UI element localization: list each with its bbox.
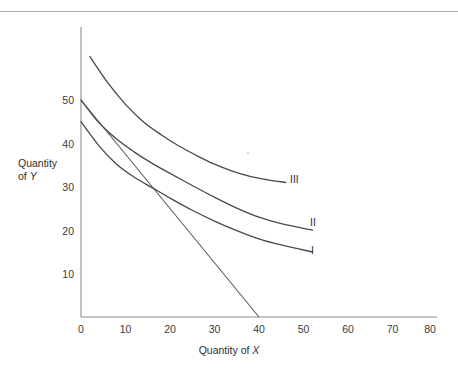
budget-constraint-line <box>81 100 259 317</box>
indifference-curve-iii <box>90 57 286 183</box>
x-tick-label-60: 60 <box>342 323 354 335</box>
y-tick-label-20: 20 <box>62 225 74 237</box>
x-tick-label-10: 10 <box>120 323 132 335</box>
curve-label-iii: III <box>290 173 299 185</box>
y-axis-title-variable: Y <box>30 170 37 182</box>
y-tick-label-50: 50 <box>62 94 74 106</box>
figure-root: 0 10 20 30 40 50 60 70 80 10 20 30 40 50… <box>0 0 458 372</box>
x-axis-title: Quantity of X <box>0 344 458 356</box>
x-axis-title-prefix: Quantity of <box>199 344 253 356</box>
x-axis-title-variable: X <box>252 344 259 356</box>
y-tick-label-10: 10 <box>62 268 74 280</box>
indifference-curve-i <box>81 122 312 252</box>
y-axis-title-line2-prefix: of <box>18 170 30 182</box>
indifference-curve-ii <box>81 100 312 230</box>
chart-canvas: 0 10 20 30 40 50 60 70 80 10 20 30 40 50… <box>0 0 458 372</box>
x-tick-label-70: 70 <box>387 323 399 335</box>
y-axis-title-line1: Quantity <box>18 157 57 169</box>
x-tick-label-20: 20 <box>164 323 176 335</box>
x-tick-label-0: 0 <box>78 323 84 335</box>
y-axis-title: Quantity of Y <box>18 157 82 183</box>
y-tick-label-40: 40 <box>62 138 74 150</box>
x-tick-label-30: 30 <box>209 323 221 335</box>
curve-label-ii: II <box>310 216 316 228</box>
curve-label-i: I <box>311 244 314 256</box>
x-tick-label-50: 50 <box>298 323 310 335</box>
x-tick-label-40: 40 <box>253 323 265 335</box>
x-tick-label-80: 80 <box>424 323 436 335</box>
